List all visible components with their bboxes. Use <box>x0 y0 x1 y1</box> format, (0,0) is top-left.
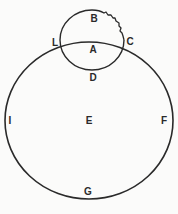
label-b: B <box>90 14 97 24</box>
label-f: F <box>161 116 167 126</box>
label-i: I <box>9 116 12 126</box>
label-e: E <box>86 116 93 126</box>
label-c: C <box>126 37 133 47</box>
label-a: A <box>89 45 96 55</box>
label-l: L <box>52 38 58 48</box>
figure-caption: Fig. 1 <box>75 212 103 214</box>
label-d: D <box>89 73 96 83</box>
label-g: G <box>84 187 92 197</box>
circle-diagram <box>0 0 178 214</box>
diagram-figure: B L C A D E I F G Fig. 1 <box>0 0 178 214</box>
